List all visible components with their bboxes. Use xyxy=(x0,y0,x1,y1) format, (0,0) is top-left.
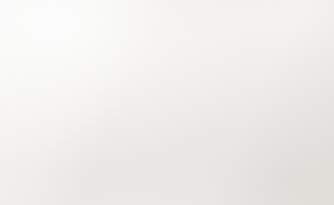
bar-slot xyxy=(122,19,138,185)
x-axis-tick-label: 2001 xyxy=(90,187,106,192)
bar-slot xyxy=(90,19,106,185)
bar xyxy=(77,80,87,185)
bar-slot xyxy=(155,19,171,185)
x-axis-tick-label: 2012 xyxy=(268,187,284,192)
bar-slot xyxy=(203,19,219,185)
bar-slot xyxy=(138,19,154,185)
bar-slot xyxy=(301,19,317,185)
bar xyxy=(109,71,119,185)
x-axis-tick-label: 1999 xyxy=(57,187,73,192)
bar-slot xyxy=(252,19,268,185)
bar xyxy=(44,94,54,185)
x-axis-tick-label: 1998 xyxy=(41,187,57,192)
x-axis-tick-label: 2004 xyxy=(138,187,154,192)
x-axis-tick-label: 2003 xyxy=(122,187,138,192)
bar xyxy=(142,64,152,185)
bar xyxy=(255,47,265,185)
x-axis-tick-label: 2010 xyxy=(236,187,252,192)
bar-slot xyxy=(187,19,203,185)
x-axis-tick-label: 2009 xyxy=(220,187,236,192)
bar-slot xyxy=(57,19,73,185)
bar-slot xyxy=(73,19,89,185)
bar xyxy=(190,52,200,185)
bar xyxy=(93,77,103,185)
x-axis-tick-label: 2002 xyxy=(106,187,122,192)
chart-screenshot: YUNLIN COUNTY NUMBER OF ELDERLY (65 year… xyxy=(0,0,334,205)
bar xyxy=(304,37,314,185)
x-axis-tick-label: 2011 xyxy=(252,187,268,192)
bar-slot xyxy=(220,19,236,185)
x-axis-tick-labels: 1998199920002001200220032004200520062007… xyxy=(36,187,321,192)
x-axis-tick-label: 2014 xyxy=(301,187,317,192)
bar xyxy=(174,56,184,185)
bar-slot xyxy=(41,19,57,185)
bar xyxy=(288,41,298,185)
bar xyxy=(61,87,71,185)
x-axis-line xyxy=(35,185,321,186)
bar xyxy=(126,69,136,185)
x-axis-tick-label: 2005 xyxy=(155,187,171,192)
x-axis-tick-label: 2007 xyxy=(187,187,203,192)
bar xyxy=(239,50,249,185)
x-axis-tick-label: 2013 xyxy=(285,187,301,192)
bar xyxy=(207,49,217,185)
bar-slot xyxy=(106,19,122,185)
bar-slot xyxy=(236,19,252,185)
y-axis-tick-labels: —————————————————————————————— xyxy=(15,21,35,185)
bar-slot xyxy=(268,19,284,185)
bar xyxy=(158,60,168,185)
bar xyxy=(223,49,233,185)
chart-frame: YUNLIN COUNTY NUMBER OF ELDERLY (65 year… xyxy=(8,6,326,198)
bar xyxy=(272,43,282,185)
plot-area xyxy=(36,19,321,185)
x-axis-tick-label: 2006 xyxy=(171,187,187,192)
bar-slot xyxy=(285,19,301,185)
bar-slot xyxy=(171,19,187,185)
x-axis-tick-label: 2008 xyxy=(203,187,219,192)
bar-series xyxy=(36,19,321,185)
x-axis-tick-label: 2000 xyxy=(73,187,89,192)
